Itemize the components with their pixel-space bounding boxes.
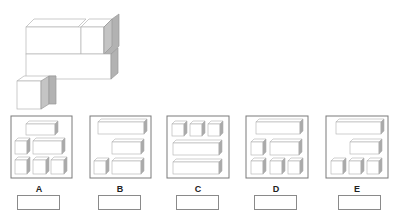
option-d-answer-box[interactable] (254, 195, 297, 210)
option-e-label: E (347, 184, 367, 194)
option-a-answer-box[interactable] (17, 195, 60, 210)
option-c-figure (167, 116, 229, 178)
option-b-answer-box[interactable] (98, 195, 141, 210)
option-c-label: C (188, 184, 208, 194)
option-b-label: B (110, 184, 130, 194)
option-e-figure (326, 116, 388, 178)
option-a-label: A (29, 184, 49, 194)
main-figure (17, 14, 119, 109)
option-d-figure (246, 116, 308, 178)
option-b-figure (90, 116, 151, 178)
option-c-answer-box[interactable] (176, 195, 219, 210)
option-d-label: D (266, 184, 286, 194)
option-a-figure (11, 116, 72, 178)
option-e-answer-box[interactable] (338, 195, 381, 210)
